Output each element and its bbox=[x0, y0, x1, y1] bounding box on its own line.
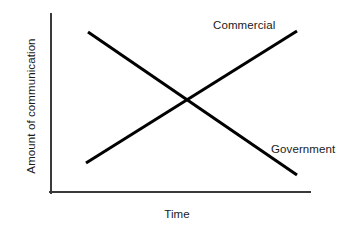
series-line-government bbox=[88, 32, 297, 175]
y-axis-label: Amount of communication bbox=[25, 38, 38, 173]
x-axis-label: Time bbox=[0, 208, 356, 221]
chart-plot-area bbox=[0, 0, 358, 235]
series-label-government: Government bbox=[271, 143, 335, 156]
chart-container: Commercial Government Time Amount of com… bbox=[0, 0, 358, 235]
series-label-commercial: Commercial bbox=[213, 19, 275, 32]
